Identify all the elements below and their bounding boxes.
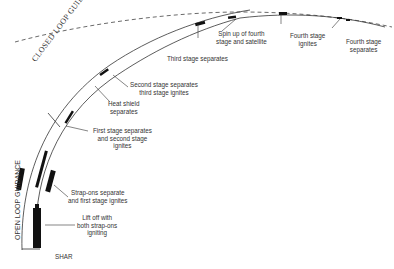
label-launch-site: SHAR	[55, 253, 73, 261]
label-second-stage: Second stage separates third stage ignit…	[130, 81, 198, 96]
closed-loop-tick	[48, 113, 60, 127]
label-liftoff: Lift off with both strap-ons igniting	[77, 214, 117, 237]
trajectory-drawing	[0, 0, 394, 269]
label-first-stage: First stage separates and second stage i…	[93, 127, 152, 150]
spin-up-marker-icon	[228, 15, 236, 19]
label-spin-up: Spin up of fourth stage and satellite	[216, 30, 267, 45]
label-third-stage: Third stage separates	[167, 55, 228, 63]
open-loop-guidance-label: OPEN LOOP GUIDANCE	[14, 160, 21, 240]
strapon-right-icon	[45, 170, 56, 193]
fourth-separate-marker-icon	[337, 17, 342, 19]
rocket-liftoff-icon	[33, 204, 41, 248]
trajectory-diagram: CLOSED LOOP GUIDANCE OPEN LOOP GUIDANCE …	[0, 0, 394, 269]
label-strapons: Strap-ons separate and first stage ignit…	[68, 189, 128, 204]
fourth-ignite-marker-icon	[279, 12, 287, 15]
label-fourth-ignite: Fourth stage ignites	[290, 32, 325, 47]
satellite-marker-icon	[346, 19, 350, 21]
label-fourth-separate: Fourth stage separates	[346, 38, 381, 53]
label-heat-shield: Heat shield separates	[108, 100, 140, 115]
